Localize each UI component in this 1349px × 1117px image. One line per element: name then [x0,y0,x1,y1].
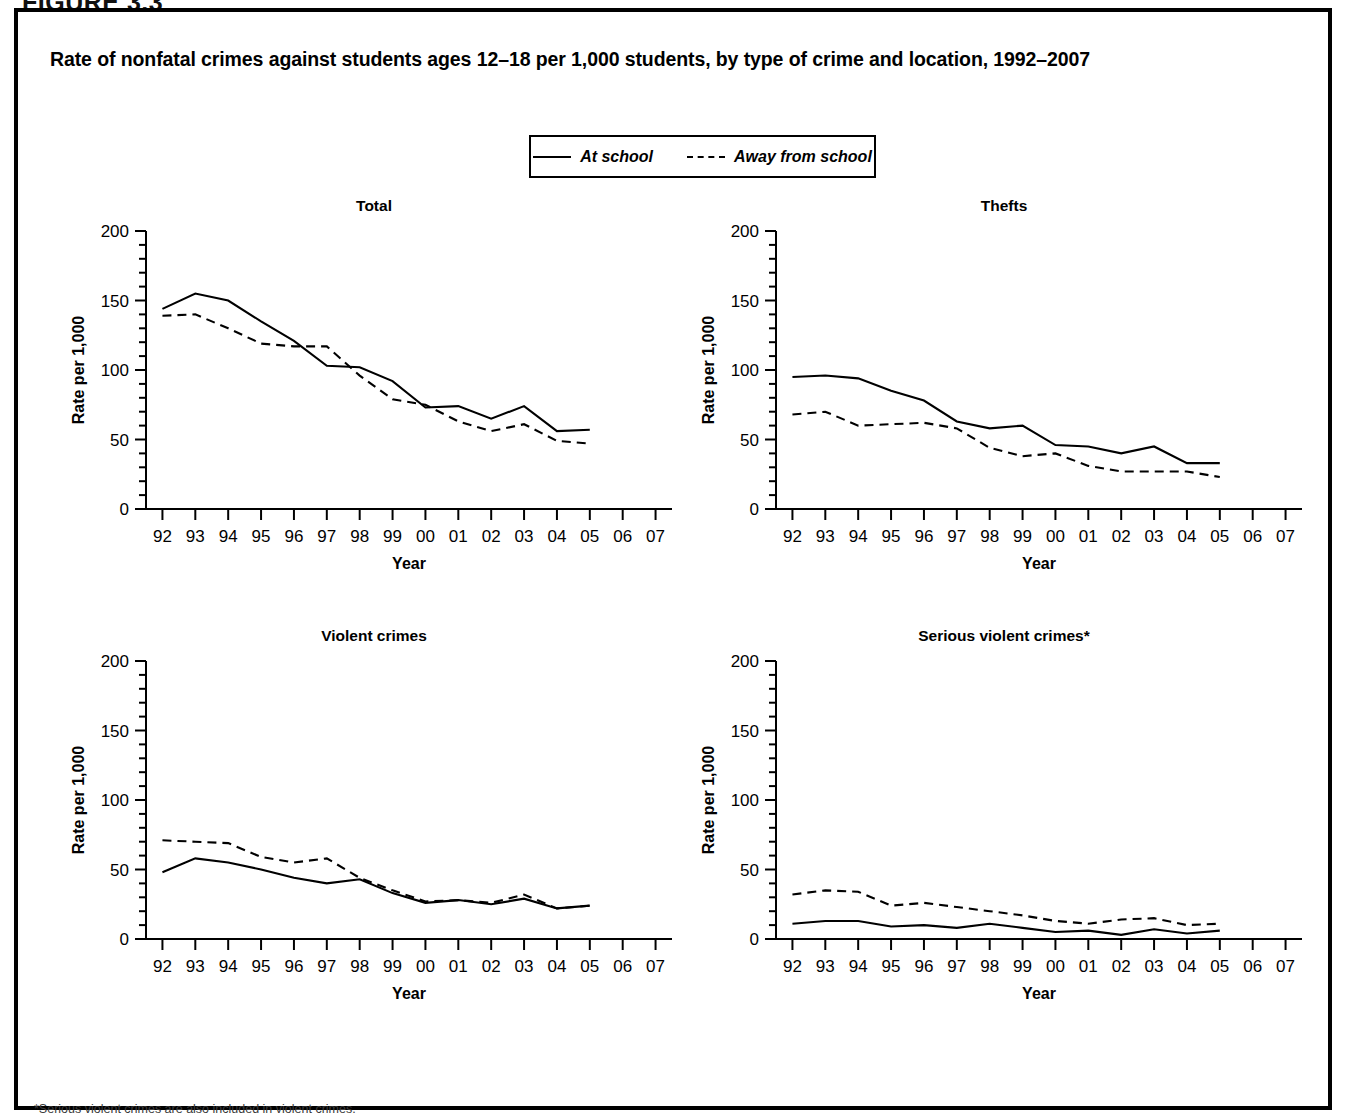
svg-text:92: 92 [783,527,802,546]
svg-text:0: 0 [120,500,129,519]
series-at-school [792,921,1219,935]
svg-text:04: 04 [547,957,566,976]
svg-text:100: 100 [731,361,759,380]
legend-label-away-from-school: Away from school [734,148,872,166]
svg-text:96: 96 [914,957,933,976]
svg-text:06: 06 [1243,527,1262,546]
svg-text:97: 97 [947,527,966,546]
svg-text:02: 02 [1112,957,1131,976]
series-away-from-school [792,412,1219,477]
svg-text:Rate per 1,000: Rate per 1,000 [70,746,87,855]
svg-text:03: 03 [515,527,534,546]
svg-text:94: 94 [219,527,238,546]
svg-text:97: 97 [317,957,336,976]
legend-item-away-from-school: Away from school [687,148,872,166]
series-away-from-school [162,314,589,443]
svg-text:93: 93 [186,957,205,976]
panel-title-violent-crimes: Violent crimes [64,627,684,645]
svg-text:Rate per 1,000: Rate per 1,000 [700,746,717,855]
svg-text:99: 99 [1013,957,1032,976]
svg-text:Rate per 1,000: Rate per 1,000 [70,316,87,425]
svg-text:95: 95 [252,527,271,546]
svg-text:96: 96 [914,527,933,546]
svg-text:150: 150 [101,292,129,311]
svg-text:98: 98 [350,957,369,976]
svg-text:94: 94 [849,527,868,546]
svg-text:Rate per 1,000: Rate per 1,000 [700,316,717,425]
svg-text:0: 0 [120,930,129,949]
svg-text:01: 01 [449,527,468,546]
svg-text:99: 99 [383,957,402,976]
svg-text:150: 150 [101,722,129,741]
svg-text:00: 00 [1046,527,1065,546]
chart-svg-thefts: 0501001502009293949596979899000102030405… [694,219,1314,597]
svg-text:Year: Year [1022,555,1056,572]
panel-thefts: Thefts 050100150200929394959697989900010… [694,197,1314,597]
svg-text:200: 200 [731,222,759,241]
svg-text:95: 95 [882,957,901,976]
svg-text:50: 50 [110,431,129,450]
svg-text:02: 02 [1112,527,1131,546]
svg-text:150: 150 [731,722,759,741]
svg-text:04: 04 [1177,957,1196,976]
figure-footnote: *Serious violent crimes are also include… [34,1102,356,1116]
chart-legend: At school Away from school [529,135,876,178]
svg-text:97: 97 [317,527,336,546]
svg-text:95: 95 [882,527,901,546]
panel-serious-violent-crimes: Serious violent crimes* 0501001502009293… [694,627,1314,1027]
dashed-line-swatch-icon [687,156,725,158]
svg-text:07: 07 [1276,527,1295,546]
svg-text:06: 06 [1243,957,1262,976]
svg-text:94: 94 [849,957,868,976]
svg-text:05: 05 [580,957,599,976]
svg-text:93: 93 [186,527,205,546]
svg-text:92: 92 [153,957,172,976]
svg-text:100: 100 [731,791,759,810]
svg-text:07: 07 [646,957,665,976]
svg-text:04: 04 [547,527,566,546]
svg-text:98: 98 [980,527,999,546]
svg-text:200: 200 [101,652,129,671]
svg-text:Year: Year [392,555,426,572]
svg-text:04: 04 [1177,527,1196,546]
panel-title-thefts: Thefts [694,197,1314,215]
panel-title-total: Total [64,197,684,215]
svg-text:00: 00 [416,527,435,546]
series-at-school [162,294,589,432]
figure-title: Rate of nonfatal crimes against students… [50,48,1090,71]
legend-item-at-school: At school [533,148,653,166]
svg-text:01: 01 [1079,527,1098,546]
svg-text:07: 07 [646,527,665,546]
svg-text:02: 02 [482,957,501,976]
svg-text:92: 92 [153,527,172,546]
svg-text:03: 03 [515,957,534,976]
series-at-school [792,376,1219,464]
svg-text:Year: Year [392,985,426,1002]
svg-text:06: 06 [613,527,632,546]
svg-text:99: 99 [1013,527,1032,546]
legend-label-at-school: At school [580,148,653,166]
panel-total: Total 0501001502009293949596979899000102… [64,197,684,597]
chart-svg-violent-crimes: 0501001502009293949596979899000102030405… [64,649,684,1027]
svg-text:200: 200 [101,222,129,241]
svg-text:95: 95 [252,957,271,976]
svg-text:01: 01 [449,957,468,976]
svg-text:96: 96 [284,527,303,546]
svg-text:92: 92 [783,957,802,976]
svg-text:100: 100 [101,361,129,380]
svg-text:50: 50 [740,431,759,450]
chart-svg-total: 0501001502009293949596979899000102030405… [64,219,684,597]
svg-text:50: 50 [740,861,759,880]
svg-text:50: 50 [110,861,129,880]
svg-text:96: 96 [284,957,303,976]
svg-text:05: 05 [580,527,599,546]
svg-text:05: 05 [1210,957,1229,976]
svg-text:02: 02 [482,527,501,546]
svg-text:00: 00 [1046,957,1065,976]
svg-text:100: 100 [101,791,129,810]
chart-svg-serious-violent-crimes: 0501001502009293949596979899000102030405… [694,649,1314,1027]
svg-text:200: 200 [731,652,759,671]
svg-text:99: 99 [383,527,402,546]
svg-text:06: 06 [613,957,632,976]
svg-text:Year: Year [1022,985,1056,1002]
